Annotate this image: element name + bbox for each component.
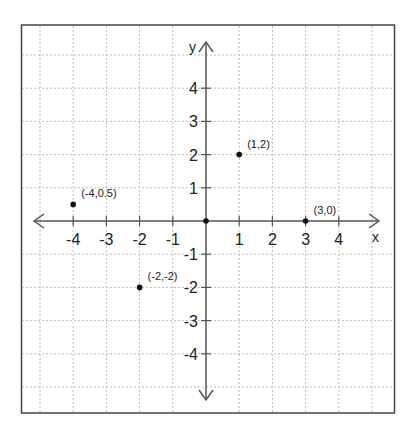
x-tick-label: 1 [235,231,244,248]
y-tick-label: -3 [184,313,198,330]
x-tick-label: 4 [334,231,343,248]
x-tick-label: 3 [301,231,310,248]
x-tick-label: 2 [268,231,277,248]
data-point [70,202,76,208]
y-tick-label: -4 [184,346,198,363]
x-axis-label: x [372,229,379,245]
coordinate-plane: -4-3-2-112344321-1-2-3-4 x y (1,2)(-4,0.… [0,0,413,431]
y-tick-label: 2 [189,147,198,164]
data-point-label: (3,0) [314,204,337,216]
x-tick-label: -3 [99,231,113,248]
x-tick-label: -2 [132,231,146,248]
data-point-label: (-4,0.5) [81,187,116,199]
data-point [303,218,309,224]
data-point-label: (1,2) [247,138,270,150]
data-point [203,218,209,224]
y-tick-label: -1 [184,246,198,263]
y-axis-label: y [189,39,196,55]
y-tick-label: -2 [184,279,198,296]
data-point [236,152,242,158]
y-tick-label: 1 [189,180,198,197]
y-tick-label: 3 [189,113,198,130]
data-point [137,285,143,291]
x-tick-label: -1 [166,231,180,248]
x-tick-label: -4 [66,231,80,248]
data-point-label: (-2,-2) [148,270,178,282]
y-tick-label: 4 [189,80,198,97]
